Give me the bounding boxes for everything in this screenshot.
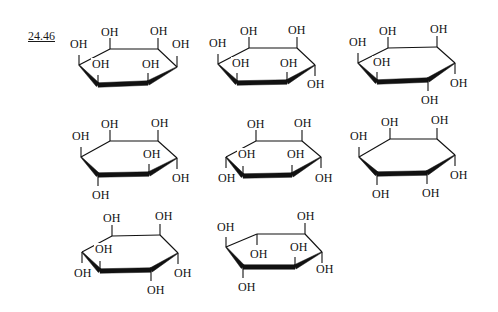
inositol-structure-2: OHOHOHOHOHOH [208,23,325,91]
bold-bond [98,172,149,177]
inositol-structure-8: OHOHOHOHOHOH [216,209,334,294]
ring-bond [160,235,178,253]
hydroxyl-label: OH [174,266,192,280]
hydroxyl-label: OH [349,35,367,49]
inositol-structure-1: OHOHOHOHOHOH [69,24,190,87]
hydroxyl-label: OH [74,266,92,280]
hydroxyl-label: OH [421,93,439,107]
hydroxyl-label: OH [101,117,119,131]
bold-bond [377,171,427,176]
hydroxyl-label: OH [151,116,169,130]
hydroxyl-label: OH [247,117,265,131]
hydroxyl-label: OH [101,25,119,39]
wedge-bond [81,157,100,177]
hydroxyl-label: OH [290,240,308,254]
hydroxyl-label: OH [238,280,256,294]
bold-bond [237,80,287,85]
hydroxyl-label: OH [147,283,165,297]
hydroxyl-label: OH [315,171,333,185]
ring-bond [297,48,315,65]
hydroxyl-label: OH [143,147,161,161]
hydroxyl-label: OH [450,76,468,90]
hydroxyl-label: OH [238,147,256,161]
bold-bond [243,173,292,178]
hydroxyl-label: OH [72,129,90,143]
inositol-structure-5: OHOHOHOHOHOH [217,116,333,185]
wedge-bond [359,157,379,176]
hydroxyl-label: OH [430,22,448,36]
hydroxyl-label: OH [372,187,390,201]
hydroxyl-label: OH [316,262,334,276]
hydroxyl-label: OH [350,129,368,143]
hydroxyl-label: OH [92,57,110,71]
hydroxyl-label: OH [218,171,236,185]
hydroxyl-label: OH [155,209,173,223]
ring-bond [388,47,437,48]
hydroxyl-label: OH [209,36,227,50]
ring-bond [437,47,455,63]
hydroxyl-label: OH [150,24,168,38]
hydroxyl-label: OH [232,56,250,70]
hydroxyl-label: OH [250,247,268,261]
inositol-structure-3: OHOHOHOHOHOH [348,22,468,107]
hydroxyl-label: OH [379,24,397,38]
hydroxyl-label: OH [240,24,258,38]
hydroxyl-label: OH [103,211,121,225]
inositol-structure-6: OHOHOHOHOHOH [349,113,468,201]
bold-bond [98,81,148,87]
hydroxyl-label: OH [297,209,315,223]
hydroxyl-label: OH [294,116,312,130]
hydroxyl-label: OH [287,147,305,161]
hydroxyl-label: OH [431,113,449,127]
hydroxyl-label: OH [172,37,190,51]
hydroxyl-label: OH [422,186,440,200]
wedge-bond [226,247,245,269]
ring-bond [437,139,455,155]
hydroxyl-label: OH [95,242,113,256]
hydroxyl-label: OH [307,77,325,91]
hydroxyl-label: OH [373,55,391,69]
hydroxyl-label: OH [450,168,468,182]
hydroxyl-label: OH [381,115,399,129]
bold-bond [243,265,295,270]
hydroxyl-label: OH [172,171,190,185]
bold-bond [377,78,428,84]
ring-bond [81,141,110,157]
ring-bond [158,49,177,67]
hydroxyl-label: OH [288,23,306,37]
inositol-isomers-diagram: OHOHOHOHOHOHOHOHOHOHOHOHOHOHOHOHOHOHOHOH… [0,0,498,312]
hydroxyl-label: OH [92,188,110,202]
hydroxyl-label: OH [217,220,235,234]
ring-bond [112,235,160,236]
hydroxyl-label: OH [70,37,88,51]
inositol-structure-4: OHOHOHOHOHOH [71,116,190,202]
inositol-structure-7: OHOHOHOHOHOH [73,209,192,297]
hydroxyl-label: OH [142,57,160,71]
hydroxyl-label: OH [280,56,298,70]
ring-bond [226,234,257,247]
bold-bond [100,268,151,273]
